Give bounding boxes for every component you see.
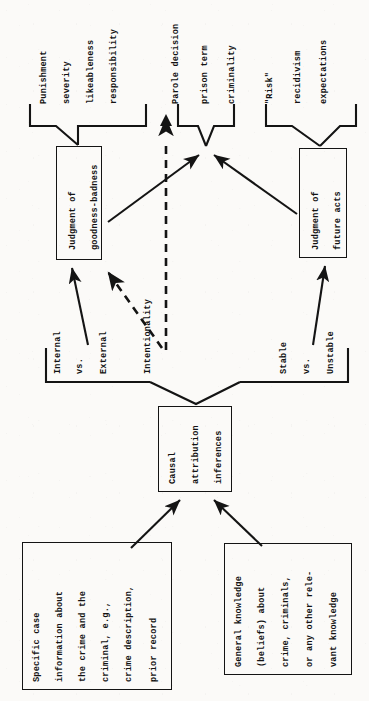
goodness-badness-to-parole-outcomes bbox=[108, 155, 199, 222]
stable-unstable-to-future-acts bbox=[313, 266, 325, 345]
specific-case-to-causal-attribution bbox=[131, 500, 180, 548]
dimension-stable: Stable bbox=[280, 342, 289, 374]
future-acts-to-parole-outcomes bbox=[214, 155, 297, 214]
judgment-future-acts-line-1: Judgment of bbox=[312, 191, 321, 250]
internal-external-to-goodness-badness bbox=[72, 268, 88, 345]
judgment-goodness-badness-line-2: goodness-badness bbox=[91, 164, 100, 250]
general-knowledge-line-4: or any other rele- bbox=[306, 571, 315, 667]
outcome-responsibility: responsibility bbox=[110, 29, 119, 104]
outcome-severity: severity bbox=[63, 61, 72, 104]
specific-case-line-5: crime description, bbox=[125, 586, 134, 682]
specific-case-line-4: criminal, e.g., bbox=[102, 602, 111, 682]
general-knowledge-to-causal-attribution bbox=[214, 500, 262, 546]
outcome-likeableness: likeableness bbox=[87, 40, 96, 104]
general-knowledge-line-5: vant knowledge bbox=[330, 592, 339, 667]
outcome-risk: "Risk" bbox=[266, 72, 275, 104]
specific-case-line-3: the crime and the bbox=[79, 591, 88, 682]
parole-outcomes-bracket bbox=[178, 104, 234, 146]
judgment-goodness-badness-line-1: Judgment of bbox=[69, 191, 78, 250]
causal-attribution-line-2: attribution bbox=[192, 425, 201, 484]
intentionality-to-goodness-badness bbox=[108, 272, 162, 348]
causal-attribution-line-1: Causal bbox=[169, 452, 178, 484]
dimension-intentionality: Intentionality bbox=[144, 299, 153, 374]
outcome-criminality: criminality bbox=[228, 45, 237, 104]
general-knowledge-line-1: General knowledge bbox=[235, 576, 244, 667]
dimension-vs-2: vs. bbox=[303, 358, 312, 374]
outcome-prison-term: prison term bbox=[201, 45, 210, 104]
general-knowledge-line-3: crime, criminals, bbox=[282, 576, 291, 667]
causal-attribution-line-3: inferences bbox=[215, 430, 224, 484]
general-knowledge-line-2: (beliefs) about bbox=[258, 587, 267, 667]
dimension-vs-1: vs. bbox=[76, 358, 85, 374]
specific-case-line-6: prior record bbox=[150, 618, 159, 682]
causal-attribution-to-dimensions-bracket bbox=[46, 348, 348, 404]
future-acts-to-risk-outcomes bbox=[266, 104, 356, 146]
figure-canvas: Punishment severity likeableness respons… bbox=[0, 0, 369, 701]
specific-case-inner bbox=[25, 545, 169, 687]
dimension-internal: Internal bbox=[54, 331, 63, 374]
outcome-parole-decision: Parole decision bbox=[172, 24, 181, 104]
judgment-future-acts-line-2: future acts bbox=[334, 191, 343, 250]
dimension-unstable: Unstable bbox=[327, 331, 336, 374]
goodness-badness-to-goodness-outcomes bbox=[30, 104, 146, 145]
dimension-external: External bbox=[100, 331, 109, 374]
specific-case-line-2: information about bbox=[56, 591, 65, 682]
outcome-expectations: expectations bbox=[320, 40, 329, 104]
outcome-recidivism: recidivism bbox=[294, 50, 303, 104]
specific-case-line-1: Specific case bbox=[33, 612, 42, 682]
outcome-punishment: Punishment bbox=[40, 50, 49, 104]
intentionality-to-responsibility bbox=[160, 114, 172, 350]
